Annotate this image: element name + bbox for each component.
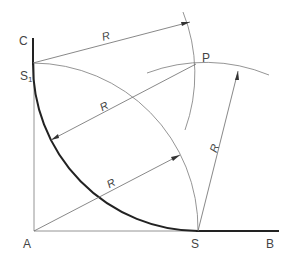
label-C: C (19, 34, 28, 48)
dim-line-A (34, 155, 180, 231)
label-S: S (191, 237, 199, 251)
arc-center-S1 (183, 12, 195, 130)
r-label-right: R (207, 142, 221, 154)
label-A: A (23, 237, 31, 251)
arrowhead-top (181, 22, 190, 26)
label-P: P (202, 51, 210, 65)
r-label-top: R (100, 29, 111, 43)
dim-line-S1 (33, 22, 190, 63)
arrowhead-S (235, 71, 239, 80)
dim-line-P-result (51, 64, 196, 140)
arrowhead-A (171, 155, 180, 161)
label-S1-subscript: 1 (28, 75, 33, 84)
r-label-middle: R (98, 99, 111, 113)
tangent-arc-construction-diagram: R R R R C S 1 P A S B (0, 0, 295, 257)
label-S1: S (20, 69, 28, 83)
result-arc (33, 63, 198, 231)
arrowhead-result (51, 134, 59, 140)
label-B: B (266, 237, 274, 251)
arc-center-A (33, 63, 198, 231)
r-label-lower: R (105, 176, 118, 190)
